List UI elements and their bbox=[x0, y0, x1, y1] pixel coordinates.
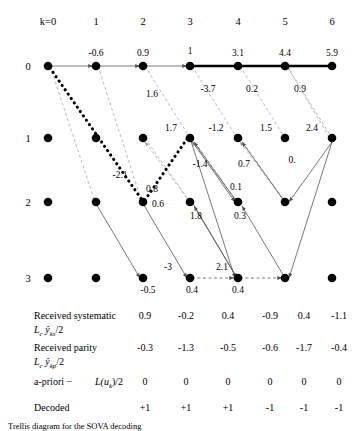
column-header-4: 4 bbox=[235, 16, 241, 27]
branch-metric: -3 bbox=[164, 262, 172, 272]
trellis-figure: k=0 1 2 3 4 5 6 0 1 2 3 -0.6 0.9 1 3.1 4… bbox=[0, 0, 355, 431]
state-metric: 2.4 bbox=[306, 123, 318, 133]
row-formula-received-systematic: Lc ŷks/2 bbox=[33, 324, 63, 338]
state-metric: 0.9 bbox=[137, 48, 149, 58]
row-header-0: 0 bbox=[25, 61, 30, 72]
row-label-received-systematic: Received systematic bbox=[34, 310, 116, 321]
state-metric: -0.6 bbox=[88, 48, 103, 58]
column-header-6: 6 bbox=[329, 16, 334, 27]
state-metric: 1.8 bbox=[190, 211, 202, 221]
column-header-1: 1 bbox=[93, 16, 98, 27]
survivor-branches bbox=[50, 66, 332, 278]
table-cell: 0 bbox=[184, 376, 189, 387]
table-cell: +1 bbox=[223, 402, 234, 413]
row-header-3: 3 bbox=[25, 273, 30, 284]
column-headers: k=0 1 2 3 4 5 6 bbox=[40, 16, 335, 27]
table-cell: -1 bbox=[335, 402, 343, 413]
metrics-table: Received systematic Lc ŷks/2 0.9 -0.2 0.… bbox=[33, 310, 347, 413]
state-metric: -0.5 bbox=[140, 285, 155, 295]
trellis-nodes bbox=[44, 62, 337, 283]
column-header-3: 3 bbox=[187, 16, 192, 27]
table-cell: -0.4 bbox=[331, 342, 347, 353]
table-cell: -0.2 bbox=[178, 310, 194, 321]
table-cell: -0.9 bbox=[262, 310, 278, 321]
trellis-diagram-canvas: k=0 1 2 3 4 5 6 0 1 2 3 -0.6 0.9 1 3.1 4… bbox=[0, 0, 355, 431]
branch-metric: 0.7 bbox=[238, 159, 250, 169]
table-cell: 0.9 bbox=[139, 310, 152, 321]
row-formula-a-priori: L(uk)/2 bbox=[94, 376, 123, 390]
table-cell: 0 bbox=[268, 376, 273, 387]
table-cell: -1 bbox=[266, 402, 274, 413]
state-metric: 0.6 bbox=[152, 199, 164, 209]
row-headers: 0 1 2 3 bbox=[25, 61, 30, 284]
state-metric: 1.5 bbox=[260, 123, 272, 133]
column-header-5: 5 bbox=[282, 16, 287, 27]
branch-metric: 0.2 bbox=[246, 84, 258, 94]
table-cell: +1 bbox=[181, 402, 192, 413]
table-cell: -0.5 bbox=[220, 342, 236, 353]
figure-caption: Trellis diagram for the SOVA decoding bbox=[8, 421, 142, 431]
row-header-2: 2 bbox=[25, 197, 30, 208]
column-header-0: k=0 bbox=[40, 16, 56, 27]
state-metric: 0.4 bbox=[232, 285, 244, 295]
table-cell: 0 bbox=[143, 376, 148, 387]
table-cell: -1.3 bbox=[178, 342, 194, 353]
column-header-2: 2 bbox=[140, 16, 145, 27]
table-cell: 0 bbox=[302, 376, 307, 387]
branch-metric: -1.4 bbox=[192, 159, 207, 169]
table-cell: 0.4 bbox=[222, 310, 235, 321]
table-cell: -0.6 bbox=[262, 342, 278, 353]
state-metric: 1 bbox=[188, 46, 193, 56]
state-metric: 4.4 bbox=[279, 48, 291, 58]
table-cell: -1 bbox=[300, 402, 308, 413]
table-cell: 0 bbox=[337, 376, 342, 387]
highlighted-path bbox=[50, 68, 189, 200]
table-cell: -0.3 bbox=[137, 342, 153, 353]
branch-metric: -2.1 bbox=[112, 170, 127, 180]
state-metric: 5.9 bbox=[326, 48, 338, 58]
branch-metric: 2.1 bbox=[216, 262, 228, 272]
branch-metric-labels: 1.6 -3.7 0.2 0.9 -2.1 -1.4 0.7 0. 0.8 0.… bbox=[112, 84, 306, 272]
row-label-decoded: Decoded bbox=[34, 402, 70, 413]
table-cell: 0.4 bbox=[298, 310, 311, 321]
row-label-a-priori: a-priori − bbox=[34, 376, 72, 387]
branch-metric: 0. bbox=[288, 155, 295, 165]
table-cell: -1.1 bbox=[331, 310, 347, 321]
state-metric: 0.4 bbox=[186, 285, 198, 295]
state-metric: 1.7 bbox=[165, 123, 177, 133]
state-metric: -1.2 bbox=[208, 123, 223, 133]
branch-metric: 1.6 bbox=[146, 89, 158, 99]
branch-metric: 0.9 bbox=[294, 84, 306, 94]
state-metric: 3.1 bbox=[232, 48, 244, 58]
table-cell: -1.7 bbox=[296, 342, 312, 353]
row-header-1: 1 bbox=[25, 133, 30, 144]
state-metric: 0.3 bbox=[234, 211, 246, 221]
row-label-received-parity: Received parity bbox=[34, 342, 97, 353]
table-cell: 0 bbox=[226, 376, 231, 387]
table-cell: +1 bbox=[140, 402, 151, 413]
branch-metric: 0.8 bbox=[146, 184, 158, 194]
branch-metric: 0.1 bbox=[230, 182, 242, 192]
row-formula-received-parity: Lc ŷkp/2 bbox=[33, 356, 64, 370]
branch-metric: -3.7 bbox=[200, 84, 215, 94]
